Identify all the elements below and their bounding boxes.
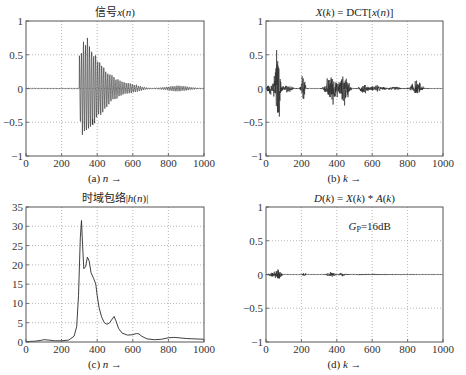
panel-caption: (d) k →: [327, 358, 361, 371]
y-tick-label: 15: [12, 278, 24, 290]
x-tick-label: 800: [399, 157, 416, 169]
y-tick-label: 1: [258, 15, 264, 27]
chart-title: X(k) = DCT[x(n)]: [315, 6, 394, 19]
panel-dk: 02004006008001000−1−0.500.51D(k) = X(k) …: [243, 192, 454, 371]
x-tick-label: 0: [23, 343, 29, 355]
y-tick-label: 1: [258, 201, 264, 213]
panel-caption: (b) k →: [327, 172, 361, 185]
y-tick-label: −1: [251, 150, 263, 162]
panel-dct-xk: 02004006008001000−1−0.500.51X(k) = DCT[x…: [243, 6, 454, 185]
x-tick-label: 600: [125, 157, 142, 169]
y-tick-label: −0.5: [243, 302, 263, 314]
y-tick-label: 0.5: [249, 235, 263, 247]
y-tick-label: 0.5: [249, 49, 263, 61]
x-tick-label: 400: [329, 157, 346, 169]
x-tick-label: 1000: [193, 343, 216, 355]
y-tick-label: 1: [18, 15, 24, 27]
signal-line: [266, 270, 443, 279]
x-tick-label: 1000: [432, 343, 455, 355]
x-tick-label: 1000: [432, 157, 455, 169]
axes-frame: [26, 207, 204, 342]
signal-line: [26, 38, 204, 135]
y-tick-label: −1: [11, 150, 23, 162]
panel-caption: (c) n →: [88, 358, 122, 371]
y-tick-label: 0: [18, 83, 24, 95]
x-tick-label: 800: [399, 343, 416, 355]
grid-lines: [26, 207, 204, 342]
x-tick-label: 0: [23, 157, 29, 169]
gain-annotation: GP=16dB: [349, 220, 391, 234]
x-tick-label: 600: [125, 343, 142, 355]
y-tick-label: 0: [258, 83, 264, 95]
chart-title: 时域包络|h(n)|: [82, 191, 149, 205]
panel-envelope-hn: 0200400600800100005101520253035时域包络|h(n)…: [12, 191, 216, 371]
x-tick-label: 600: [364, 157, 381, 169]
chart-title: 信号x(n): [95, 6, 135, 19]
chart-title: D(k) = X(k) * A(k): [313, 192, 395, 205]
x-tick-label: 0: [263, 157, 269, 169]
y-tick-label: 5: [18, 317, 24, 329]
y-tick-label: 0.5: [9, 49, 23, 61]
x-tick-label: 0: [263, 343, 269, 355]
x-tick-label: 800: [160, 157, 177, 169]
y-tick-label: 25: [12, 240, 24, 252]
x-tick-label: 400: [329, 343, 346, 355]
envelope-line: [26, 221, 204, 342]
signal-line: [266, 50, 443, 117]
x-tick-label: 200: [53, 157, 70, 169]
x-tick-label: 1000: [193, 157, 216, 169]
x-tick-label: 400: [89, 343, 106, 355]
panel-signal-xn: 02004006008001000−1−0.500.51信号x(n)(a) n …: [3, 6, 215, 185]
y-tick-label: −1: [251, 336, 263, 348]
x-tick-label: 400: [89, 157, 106, 169]
y-tick-label: 10: [12, 297, 24, 309]
y-tick-label: −0.5: [3, 116, 23, 128]
y-tick-label: 20: [12, 259, 24, 271]
y-tick-label: −0.5: [243, 116, 263, 128]
y-tick-label: 35: [12, 201, 24, 213]
y-tick-label: 30: [12, 220, 24, 232]
x-tick-label: 200: [53, 343, 70, 355]
x-tick-label: 600: [364, 343, 381, 355]
figure: 02004006008001000−1−0.500.51信号x(n)(a) n …: [0, 0, 466, 375]
x-tick-label: 800: [160, 343, 177, 355]
panel-caption: (a) n →: [88, 172, 122, 185]
y-tick-label: 0: [258, 269, 264, 281]
x-tick-label: 200: [293, 157, 310, 169]
y-tick-label: 0: [18, 336, 24, 348]
x-tick-label: 200: [293, 343, 310, 355]
